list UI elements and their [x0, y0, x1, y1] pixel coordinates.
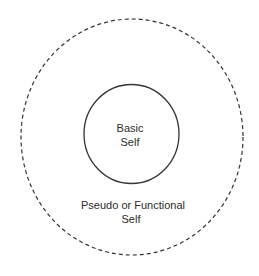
inner-label-line-1: Basic [117, 122, 144, 134]
inner-circle-basic-self [84, 85, 179, 184]
outer-label-line-1: Pseudo or Functional [81, 199, 185, 211]
self-diagram: Basic Self Pseudo or Functional Self [0, 0, 259, 276]
outer-label-line-2: Self [122, 213, 142, 225]
inner-label-line-2: Self [121, 136, 141, 148]
